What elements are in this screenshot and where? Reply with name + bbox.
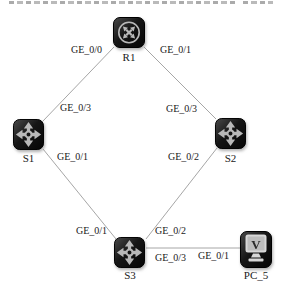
device-label-PC_5: PC_5 bbox=[244, 269, 268, 281]
device-S1[interactable] bbox=[13, 119, 44, 150]
switch-icon bbox=[13, 119, 44, 150]
device-S2[interactable] bbox=[215, 118, 246, 149]
router-icon bbox=[113, 17, 145, 48]
switch-icon bbox=[114, 237, 145, 268]
pc-screen-glyph: V bbox=[251, 237, 261, 252]
switch-icon bbox=[215, 118, 246, 149]
port-label: GE_0/3 bbox=[166, 103, 197, 114]
port-label: GE_0/1 bbox=[160, 44, 191, 55]
port-label: GE_0/1 bbox=[76, 225, 107, 236]
device-label-S3: S3 bbox=[124, 269, 136, 281]
device-label-R1: R1 bbox=[123, 51, 136, 63]
port-label: GE_0/0 bbox=[71, 44, 102, 55]
topology-canvas: R1S1S2S3VPC_5GE_0/0GE_0/1GE_0/3GE_0/3GE_… bbox=[0, 0, 282, 289]
port-label: GE_0/3 bbox=[155, 252, 186, 263]
device-PC_5[interactable]: V bbox=[240, 231, 272, 268]
device-S3[interactable] bbox=[114, 237, 145, 268]
port-label: GE_0/1 bbox=[198, 250, 229, 261]
device-label-S1: S1 bbox=[23, 152, 35, 164]
port-label: GE_0/3 bbox=[60, 102, 91, 113]
device-R1[interactable] bbox=[113, 17, 145, 48]
port-label: GE_0/1 bbox=[57, 151, 88, 162]
port-label: GE_0/2 bbox=[168, 151, 199, 162]
port-label: GE_0/2 bbox=[155, 225, 186, 236]
pc-icon: V bbox=[240, 231, 272, 268]
device-label-S2: S2 bbox=[225, 152, 237, 164]
